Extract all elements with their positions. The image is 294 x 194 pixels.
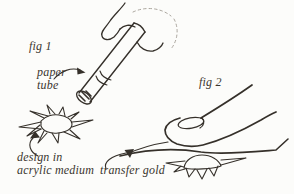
tube-open-end xyxy=(74,88,94,106)
hand-faint-sketch-lines xyxy=(133,9,177,49)
paper-tube-drawing xyxy=(74,23,145,107)
paper-tube-label: paper tube xyxy=(37,66,66,92)
transfer-star xyxy=(166,155,246,179)
book-illustration-page: fig 1 paper tube design in acrylic mediu… xyxy=(0,0,294,194)
fig1-label: fig 1 xyxy=(29,40,52,53)
arrowhead xyxy=(77,68,86,75)
design-label-line2: acrylic medium xyxy=(17,164,94,177)
fig2-label: fig 2 xyxy=(199,76,222,89)
acrylic-design-star xyxy=(19,105,93,143)
transfer-gold-sheet xyxy=(120,139,288,156)
design-label: design in acrylic medium xyxy=(17,151,94,177)
finger-drawing xyxy=(165,85,276,146)
hand-holding-tube-sketch xyxy=(102,3,178,51)
fingernail xyxy=(177,116,204,131)
transfer-gold-label: transfer gold xyxy=(100,164,165,177)
paper-tube-label-line2: tube xyxy=(37,79,66,92)
